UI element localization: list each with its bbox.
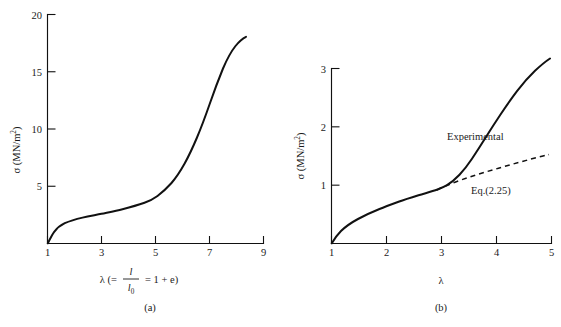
x-ticklabel-1-b: 1	[329, 247, 334, 258]
x-ticklabel-5-b: 5	[549, 247, 554, 258]
y-axis-units-b: (MN/m	[295, 140, 307, 172]
svg-text:λ (=: λ (=	[100, 274, 117, 286]
panel-b-plot: 3 2 1 1 2 3 4 5 Experimental Eq.(2.25)	[280, 0, 561, 327]
x-ticklabel-3-b: 3	[439, 247, 444, 258]
equation-label-b: Eq.(2.25)	[471, 185, 511, 197]
x-ticklabel-4-b: 4	[494, 247, 500, 258]
y-ticklabel-20-a: 20	[32, 10, 43, 21]
y-ticklabel-10-a: 10	[32, 124, 43, 135]
y-ticklabel-2-b: 2	[321, 122, 326, 133]
x-axis-open-a: (=	[108, 274, 117, 286]
y-ticklabel-5-a: 5	[37, 181, 42, 192]
x-ticklabel-1-a: 1	[45, 247, 50, 258]
panel-b: 3 2 1 1 2 3 4 5 Experimental Eq.(2.25)	[280, 0, 560, 327]
y-axis-title-a: σ (MN/m2)	[10, 126, 23, 173]
x-ticklabel-9-a: 9	[261, 247, 266, 258]
x-axis-denominator-a: l0	[128, 282, 135, 296]
stress-strain-curve-a	[48, 37, 246, 244]
x-ticklabel-7-a: 7	[207, 247, 212, 258]
panel-a: 20 15 10 5 1 3 5 7 9 σ (MN/m2)	[0, 0, 280, 327]
x-ticklabel-2-b: 2	[384, 247, 389, 258]
experimental-label-b: Experimental	[447, 131, 504, 142]
y-ticklabel-1-b: 1	[321, 180, 326, 191]
y-axis-units-close-a: )	[11, 126, 23, 130]
y-axis-units-a: (MN/m	[11, 134, 23, 166]
x-ticklabel-5-a: 5	[153, 247, 158, 258]
figure-container: 20 15 10 5 1 3 5 7 9 σ (MN/m2)	[0, 0, 561, 327]
y-ticklabel-15-a: 15	[32, 67, 43, 78]
x-axis-title-a: λ (= l l0 = 1 + e)	[100, 266, 179, 296]
panel-b-caption: (b)	[435, 302, 448, 314]
x-axis-title-b: λ	[438, 275, 444, 286]
svg-text:σ (MN/m2): σ (MN/m2)	[10, 126, 23, 173]
panel-a-caption: (a)	[144, 302, 156, 314]
y-axis-units-close-b: )	[295, 132, 307, 136]
x-axis-numerator-a: l	[130, 266, 133, 277]
x-axis-eq-tail-a: = 1 + e)	[145, 274, 179, 286]
panel-a-plot: 20 15 10 5 1 3 5 7 9 σ (MN/m2)	[0, 0, 280, 327]
experimental-curve-b	[332, 59, 550, 244]
x-ticklabel-3-a: 3	[99, 247, 104, 258]
y-ticklabel-3-b: 3	[321, 64, 326, 75]
svg-text:σ (MN/m2): σ (MN/m2)	[294, 132, 307, 179]
y-axis-title-b: σ (MN/m2)	[294, 132, 307, 179]
